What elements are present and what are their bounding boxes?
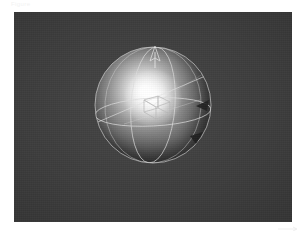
sphere-surface [95, 47, 211, 163]
scene-3d[interactable] [14, 12, 292, 222]
render-viewport[interactable] [14, 12, 292, 222]
figure-caption: Figure [11, 0, 30, 8]
page-edge-artifact [278, 226, 300, 231]
sphere-object[interactable] [95, 47, 211, 163]
